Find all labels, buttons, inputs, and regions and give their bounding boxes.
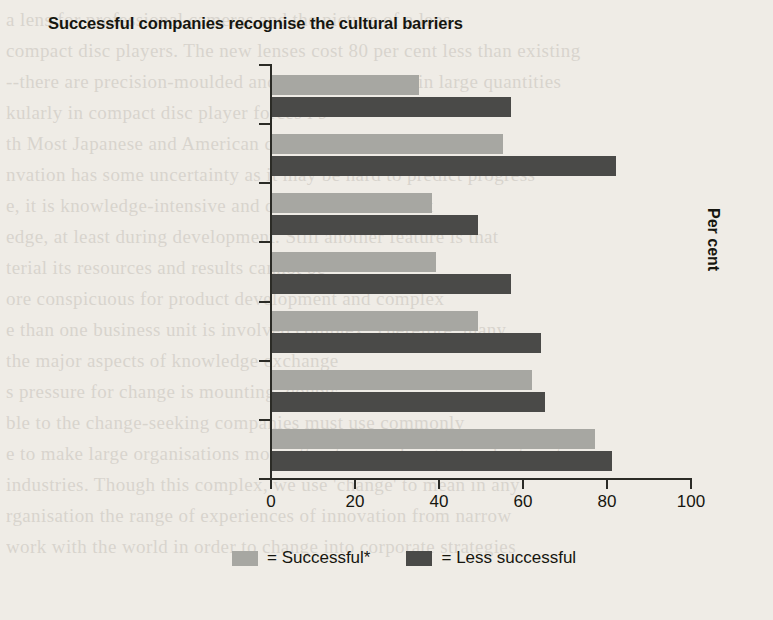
y-axis-tick <box>259 360 270 362</box>
x-axis-tick <box>270 478 272 489</box>
y-axis-tick <box>259 419 270 421</box>
bar-successful <box>272 429 595 449</box>
x-axis-tick <box>354 478 356 489</box>
legend-item-less-successful: = Less successful <box>406 548 576 568</box>
bar-chart-figure: Successful companies recognise the cultu… <box>0 0 773 620</box>
bar-successful <box>272 134 503 154</box>
x-axis-tick-label: 40 <box>430 492 449 512</box>
bar-less-successful <box>272 156 616 176</box>
bar-successful <box>272 311 478 331</box>
x-axis-tick-label: 80 <box>598 492 617 512</box>
chart-title: Successful companies recognise the cultu… <box>48 14 463 33</box>
y-axis-tick <box>259 64 270 66</box>
x-axis-tick-label: 20 <box>346 492 365 512</box>
y-axis-tick <box>259 301 270 303</box>
plot-area: 020406080100Top management assponsorInno… <box>270 64 690 478</box>
bar-successful <box>272 75 419 95</box>
y-axis-tick <box>259 241 270 243</box>
x-axis-tick-label: 100 <box>677 492 705 512</box>
legend-label-less-successful: = Less successful <box>441 548 576 568</box>
legend-item-successful: = Successful* <box>232 548 370 568</box>
bar-successful <box>272 370 532 390</box>
bar-less-successful <box>272 274 511 294</box>
y-axis-tick <box>259 182 270 184</box>
bar-less-successful <box>272 215 478 235</box>
x-axis-tick-label: 60 <box>514 492 533 512</box>
legend-label-successful: = Successful* <box>267 548 370 568</box>
bar-successful <box>272 193 432 213</box>
chart-legend: = Successful* = Less successful <box>232 548 612 568</box>
x-axis-tick <box>606 478 608 489</box>
bar-less-successful <box>272 333 541 353</box>
bar-successful <box>272 252 436 272</box>
y-axis-title: Per cent <box>704 208 722 271</box>
legend-swatch-successful-icon <box>232 551 258 566</box>
y-axis-tick <box>259 478 270 480</box>
y-axis-tick <box>259 123 270 125</box>
x-axis-tick <box>438 478 440 489</box>
bar-less-successful <box>272 97 511 117</box>
x-axis-tick <box>522 478 524 489</box>
x-axis-tick-label: 0 <box>266 492 275 512</box>
bar-less-successful <box>272 392 545 412</box>
bar-less-successful <box>272 451 612 471</box>
x-axis-tick <box>690 478 692 489</box>
legend-swatch-less-successful-icon <box>406 551 432 566</box>
x-axis-line <box>270 478 692 480</box>
